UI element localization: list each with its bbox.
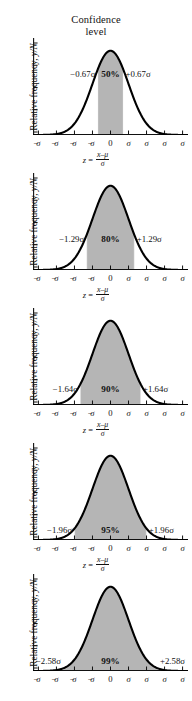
confidence-level-label-95: 95% — [101, 525, 119, 535]
confidence-level-label-99: 99% — [101, 656, 119, 666]
normal-curve-plot — [33, 173, 188, 270]
x-axis-tick-label: σ — [180, 408, 184, 418]
plot-area: Relative frequency, y/N−1.29σ80%+1.29σ — [33, 173, 188, 270]
upper-bound-label-50: +0.67σ — [126, 69, 151, 79]
plot-area: Relative frequency, y/N−2.58σ99%+2.58σ — [33, 574, 188, 671]
x-axis-tick-label: −σ — [54, 408, 58, 418]
lower-bound-label-80: −1.29σ — [59, 234, 84, 244]
x-axis-tick-label: σ — [162, 674, 166, 684]
figure-title-line1: Confidence — [71, 14, 120, 25]
x-axis-tick-label: −σ — [90, 674, 94, 684]
x-axis-tick-label: −σ — [90, 138, 94, 148]
plot-area: Relative frequency, y/N−1.64σ90%+1.64σ — [33, 308, 188, 405]
plot-area: Relative frequency, y/N−0.67σ50%+0.67σ — [33, 38, 188, 135]
x-axis-tick-label: 0 — [108, 138, 112, 148]
x-axis-tick-label: σ — [126, 543, 130, 553]
x-axis-tick-label: 0 — [108, 273, 112, 283]
x-axis-tick-label: σ — [162, 408, 166, 418]
x-axis-tick-label: −σ — [90, 408, 94, 418]
x-axis-tick-label: σ — [180, 674, 184, 684]
confidence-level-label-90: 90% — [101, 384, 119, 394]
x-axis-tick-label: −σ — [90, 273, 94, 283]
x-axis-tick-label: σ — [162, 138, 166, 148]
normal-curve-plot — [33, 38, 188, 135]
x-axis-tick-label: σ — [162, 273, 166, 283]
x-axis-tick-label: σ — [126, 273, 130, 283]
plot-area: Relative frequency, y/N−1.96σ95%+1.96σ — [33, 443, 188, 540]
lower-bound-label-99: −2.58σ — [36, 656, 61, 666]
x-axis-tick-label: −σ — [54, 543, 58, 553]
lower-bound-label-90: −1.64σ — [53, 384, 78, 394]
x-axis-tick-label: σ — [180, 138, 184, 148]
x-axis-tick-label: σ — [126, 138, 130, 148]
x-axis-tick-labels: −σ−σ−σ−σ0σσσσ — [25, 543, 192, 556]
x-axis-tick-label: 0 — [108, 674, 112, 684]
x-axis-tick-label: −σ — [72, 543, 76, 553]
x-axis-tick-label: σ — [126, 674, 130, 684]
shaded-confidence-region — [87, 186, 134, 270]
x-axis-tick-label: −σ — [90, 543, 94, 553]
x-axis-tick-label: −σ — [54, 273, 58, 283]
x-axis-tick-label: −σ — [72, 273, 76, 283]
x-axis-tick-label: σ — [162, 543, 166, 553]
x-axis-tick-label: σ — [180, 543, 184, 553]
x-axis-tick-label: −σ — [54, 138, 58, 148]
x-axis-tick-label: 0 — [108, 543, 112, 553]
lower-bound-label-50: −0.67σ — [70, 69, 95, 79]
x-axis-tick-label: σ — [126, 408, 130, 418]
x-axis-tick-label: −σ — [36, 674, 40, 684]
upper-bound-label-80: +1.29σ — [137, 234, 162, 244]
lower-bound-label-95: −1.96σ — [47, 525, 72, 535]
x-axis-tick-label: σ — [144, 273, 148, 283]
x-axis-tick-label: −σ — [72, 408, 76, 418]
confidence-level-label-80: 80% — [101, 234, 119, 244]
x-axis-tick-label: −σ — [72, 138, 76, 148]
x-axis-tick-labels: −σ−σ−σ−σ0σσσσ — [25, 674, 192, 687]
x-axis-tick-label: σ — [144, 138, 148, 148]
shaded-confidence-region — [98, 51, 122, 135]
x-axis-tick-label: σ — [144, 674, 148, 684]
confidence-level-label-50: 50% — [101, 69, 119, 79]
x-axis-tick-label: σ — [180, 273, 184, 283]
x-axis-tick-labels: −σ−σ−σ−σ0σσσσ — [25, 138, 192, 151]
x-axis-tick-label: σ — [144, 408, 148, 418]
x-axis-tick-labels: −σ−σ−σ−σ0σσσσ — [25, 408, 192, 421]
upper-bound-label-99: +2.58σ — [160, 656, 185, 666]
x-axis-tick-label: −σ — [72, 674, 76, 684]
confidence-level-figure: Confidence level Relative frequency, y/N… — [0, 0, 192, 701]
upper-bound-label-95: +1.96σ — [149, 525, 174, 535]
distribution-panel-99: Relative frequency, y/N−2.58σ99%+2.58σ−σ… — [0, 566, 192, 701]
x-axis-tick-labels: −σ−σ−σ−σ0σσσσ — [25, 273, 192, 286]
x-axis-tick-label: −σ — [54, 674, 58, 684]
x-axis-tick-label: σ — [144, 543, 148, 553]
x-axis-tick-label: 0 — [108, 408, 112, 418]
upper-bound-label-90: +1.64σ — [143, 384, 168, 394]
